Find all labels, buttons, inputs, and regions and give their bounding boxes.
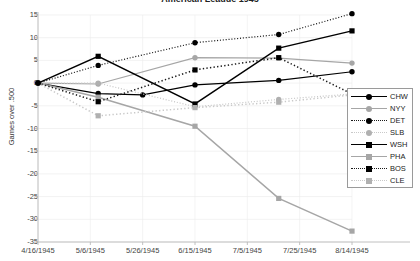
legend-label: DET (388, 115, 405, 127)
legend-label: WSH (388, 139, 408, 151)
legend-item-wsh[interactable]: WSH (350, 139, 410, 151)
legend-swatch-chw (350, 91, 388, 103)
circle-marker-icon (366, 118, 372, 124)
x-tick-label: 7/5/1945 (233, 246, 262, 255)
circle-marker-icon (366, 130, 372, 136)
legend-item-cle[interactable]: CLE (350, 175, 410, 187)
data-point-bos (276, 55, 281, 60)
data-point-det (192, 40, 197, 45)
circle-marker-icon (366, 106, 372, 112)
legend-swatch-bos (350, 163, 388, 175)
data-point-wsh (349, 28, 354, 33)
x-tick-label: 8/14/1945 (335, 246, 368, 255)
data-point-det (349, 11, 354, 16)
legend-swatch-wsh (350, 139, 388, 151)
x-tick-label: 5/6/1945 (76, 246, 105, 255)
legend-label: SLB (388, 127, 404, 139)
data-point-cle (276, 100, 281, 105)
x-tick-label: 7/25/1945 (283, 246, 316, 255)
x-tick-label: 6/15/1945 (178, 246, 211, 255)
legend-swatch-nyy (350, 103, 388, 115)
x-tick-label: 5/26/1945 (126, 246, 159, 255)
legend-item-slb[interactable]: SLB (350, 127, 410, 139)
legend-item-bos[interactable]: BOS (350, 163, 410, 175)
legend-item-det[interactable]: DET (350, 115, 410, 127)
legend-swatch-slb (350, 127, 388, 139)
data-point-pha (349, 229, 354, 234)
data-point-pha (96, 95, 101, 100)
legend-item-nyy[interactable]: NYY (350, 103, 410, 115)
data-point-bos (96, 99, 101, 104)
data-point-cle (96, 113, 101, 118)
chart-container: American League 1945 Games over .500 151… (0, 0, 420, 261)
legend-swatch-cle (350, 175, 388, 187)
legend-item-chw[interactable]: CHW (350, 91, 410, 103)
legend-label: BOS (388, 163, 406, 175)
data-point-chw (276, 78, 281, 83)
x-tick-label: 4/16/1945 (21, 246, 54, 255)
legend[interactable]: CHWNYYDETSLBWSHPHABOSCLE (347, 88, 413, 188)
data-point-origin (35, 80, 41, 86)
data-point-pha (192, 124, 197, 129)
legend-item-pha[interactable]: PHA (350, 151, 410, 163)
legend-label: CLE (388, 175, 405, 187)
data-point-cle (192, 105, 197, 110)
data-point-slb (95, 80, 100, 85)
data-point-det (276, 32, 281, 37)
square-marker-icon (366, 142, 372, 148)
data-point-pha (276, 196, 281, 201)
data-point-nyy (192, 55, 197, 60)
legend-label: NYY (388, 103, 405, 115)
data-point-det (95, 63, 100, 68)
data-point-nyy (349, 60, 354, 65)
square-marker-icon (366, 166, 372, 172)
data-point-bos (192, 67, 197, 72)
legend-label: CHW (388, 91, 408, 103)
data-point-chw (192, 82, 197, 87)
circle-marker-icon (366, 94, 372, 100)
square-marker-icon (366, 154, 372, 160)
data-point-chw (349, 69, 354, 74)
legend-label: PHA (388, 151, 405, 163)
data-point-wsh (276, 46, 281, 51)
legend-swatch-pha (350, 151, 388, 163)
data-point-wsh (96, 54, 101, 59)
square-marker-icon (366, 178, 372, 184)
legend-swatch-det (350, 115, 388, 127)
